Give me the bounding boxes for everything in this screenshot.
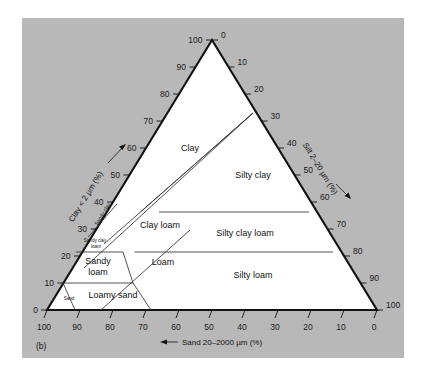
class-label-clay-loam: Clay loam (140, 220, 180, 230)
bottom-tick-30: 30 (270, 322, 280, 332)
class-label-silty-clay-loam: Silty clay loam (216, 228, 274, 238)
bottom-tick-10: 10 (336, 322, 346, 332)
bottom-tick-0: 0 (372, 322, 377, 332)
class-label-silty-loam: Silty loam (233, 270, 272, 280)
right-tick-80: 80 (353, 246, 363, 256)
class-label-silty-clay: Silty clay (235, 170, 271, 180)
class-label-sandy-clay-loam-line2: loam (91, 244, 101, 249)
left-tick-10: 10 (45, 278, 55, 288)
class-label-loam: Loam (152, 257, 175, 267)
class-label-sandy-loam-line2: loam (88, 267, 108, 277)
figure-page: 0 10 20 30 40 50 60 70 80 90 100 (0, 0, 421, 374)
bottom-tick-70: 70 (138, 322, 148, 332)
class-label-loamy-sand: Loamy sand (88, 290, 137, 300)
bottom-axis-title: Sand 20–2000 µm (%) (182, 338, 263, 347)
right-tick-100: 100 (386, 300, 400, 310)
bottom-tick-100: 100 (37, 322, 51, 332)
right-tick-50: 50 (304, 165, 314, 175)
right-tick-40: 40 (287, 138, 297, 148)
class-label-sandy-loam-line1: Sandy (85, 256, 111, 266)
bottom-axis-ticks (44, 310, 377, 318)
left-tick-30: 30 (78, 224, 88, 234)
right-tick-0: 0 (221, 30, 226, 40)
right-tick-90: 90 (370, 273, 380, 283)
class-label-clay: Clay (181, 143, 200, 153)
class-label-sand: Sand (64, 296, 75, 301)
left-tick-40: 40 (94, 197, 104, 207)
left-tick-70: 70 (144, 116, 154, 126)
left-tick-80: 80 (160, 89, 170, 99)
right-tick-20: 20 (254, 84, 264, 94)
bottom-axis-arrow-icon (160, 340, 178, 345)
right-tick-70: 70 (337, 219, 347, 229)
left-tick-20: 20 (61, 251, 71, 261)
left-tick-60: 60 (127, 143, 137, 153)
bottom-tick-40: 40 (237, 322, 247, 332)
bottom-tick-60: 60 (171, 322, 181, 332)
left-tick-100: 100 (188, 35, 202, 45)
bottom-tick-90: 90 (72, 322, 82, 332)
right-tick-60: 60 (320, 192, 330, 202)
left-axis-arrow-icon (108, 144, 126, 163)
soil-texture-triangle-figure: 0 10 20 30 40 50 60 70 80 90 100 (0, 0, 421, 374)
right-tick-30: 30 (271, 111, 281, 121)
class-label-sandy-clay-loam-line1: Sandy clay (84, 238, 107, 243)
left-tick-0: 0 (33, 305, 38, 315)
bottom-tick-50: 50 (204, 322, 214, 332)
figure-caption: (b) (36, 341, 47, 351)
bottom-tick-80: 80 (105, 322, 115, 332)
left-tick-90: 90 (177, 62, 187, 72)
left-tick-50: 50 (111, 170, 121, 180)
right-tick-10: 10 (238, 57, 248, 67)
bottom-tick-20: 20 (303, 322, 313, 332)
bottom-axis-tick-labels: 100 90 80 70 60 50 40 30 20 10 0 (37, 322, 377, 332)
